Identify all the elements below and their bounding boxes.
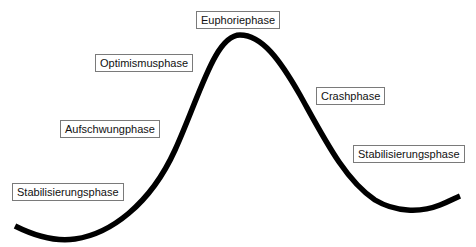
phase-label-optimismus: Optimismusphase <box>95 54 193 72</box>
phase-label-euphorie: Euphoriephase <box>196 11 280 29</box>
market-cycle-diagram: Stabilisierungsphase Aufschwungphase Opt… <box>0 0 476 247</box>
phase-label-crash: Crashphase <box>316 87 385 105</box>
phase-label-stabilisierung-right: Stabilisierungsphase <box>353 145 465 163</box>
phase-label-aufschwung: Aufschwungphase <box>60 120 160 138</box>
phase-label-stabilisierung-left: Stabilisierungsphase <box>12 183 124 201</box>
